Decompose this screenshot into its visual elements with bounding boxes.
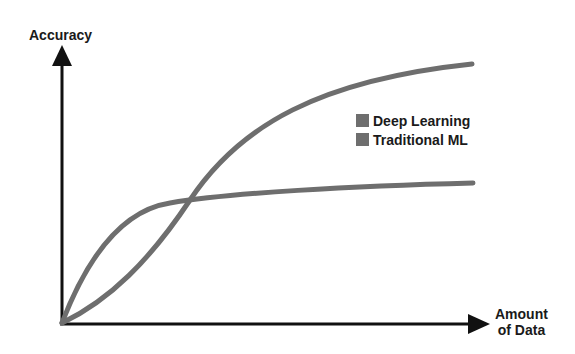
legend: Deep Learning Traditional ML (356, 111, 470, 149)
chart-canvas (0, 0, 575, 354)
traditional-ml-curve (62, 183, 473, 323)
x-axis-label: Amount of Data (495, 306, 548, 338)
legend-swatch-icon (356, 133, 369, 146)
y-axis-label: Accuracy (29, 27, 92, 43)
legend-label: Traditional ML (373, 132, 468, 148)
x-axis-label-line2: of Data (495, 322, 548, 338)
y-axis-arrow-icon (52, 45, 72, 66)
x-axis-arrow-icon (468, 314, 490, 334)
x-axis-label-line1: Amount (495, 306, 548, 322)
legend-item-deep-learning: Deep Learning (356, 111, 470, 130)
legend-swatch-icon (356, 114, 369, 127)
legend-label: Deep Learning (373, 113, 470, 129)
legend-item-traditional-ml: Traditional ML (356, 130, 470, 149)
